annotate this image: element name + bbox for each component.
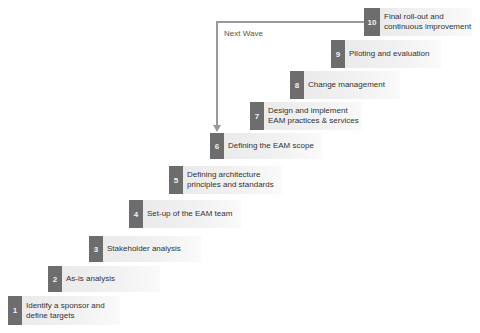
step-5: 5 Defining architecture principles and s… <box>169 166 274 194</box>
step-label: Identify a sponsor and define targets <box>22 296 105 325</box>
step-9: 9 Piloting and evaluation <box>331 40 430 68</box>
step-number: 8 <box>290 71 304 99</box>
step-number: 10 <box>364 8 380 36</box>
step-7: 7 Design and implement EAM practices & s… <box>250 102 359 130</box>
arrow-down-icon <box>213 125 221 132</box>
step-label: Set-up of the EAM team <box>143 200 232 228</box>
step-10: 10 Final roll-out and continuous improve… <box>364 8 471 36</box>
step-number: 2 <box>48 266 62 292</box>
step-2: 2 As-is analysis <box>48 266 115 292</box>
step-label: Stakeholder analysis <box>103 236 181 262</box>
next-wave-label: Next Wave <box>224 29 263 38</box>
step-label: Final roll-out and continuous improvemen… <box>380 8 471 36</box>
step-1: 1 Identify a sponsor and define targets <box>8 296 105 325</box>
step-number: 9 <box>331 40 345 68</box>
step-number: 6 <box>210 133 224 159</box>
step-label: Defining architecture principles and sta… <box>183 166 274 194</box>
step-label: Defining the EAM scope <box>224 133 314 159</box>
step-label: Design and implement EAM practices & ser… <box>264 102 359 130</box>
step-3: 3 Stakeholder analysis <box>89 236 181 262</box>
step-8: 8 Change management <box>290 71 385 99</box>
step-number: 7 <box>250 102 264 130</box>
step-number: 1 <box>8 296 22 325</box>
step-label: Change management <box>304 71 385 99</box>
step-number: 3 <box>89 236 103 262</box>
step-number: 5 <box>169 166 183 194</box>
step-6: 6 Defining the EAM scope <box>210 133 314 159</box>
step-label: Piloting and evaluation <box>345 40 430 68</box>
step-number: 4 <box>129 200 143 228</box>
arrow-horizontal-line <box>216 21 364 23</box>
arrow-vertical-line <box>216 21 218 127</box>
step-label: As-is analysis <box>62 266 115 292</box>
step-4: 4 Set-up of the EAM team <box>129 200 232 228</box>
